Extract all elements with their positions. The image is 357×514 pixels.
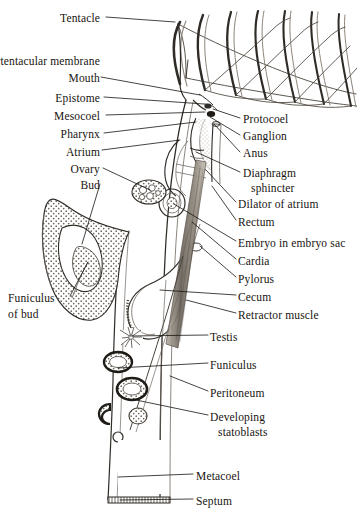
statoblast-3 bbox=[99, 404, 110, 424]
statoblast-2 bbox=[117, 378, 147, 400]
label-diaphragm-sphincter-line2: sphincter bbox=[251, 182, 295, 195]
label-diaphragm-sphincter-line1: Diaphragm bbox=[243, 167, 296, 180]
label-funiculus-of-bud-line2: of bud bbox=[8, 308, 39, 321]
statoblast-4 bbox=[129, 408, 147, 424]
label-septum: Septum bbox=[196, 495, 232, 508]
retractor-muscle bbox=[166, 160, 206, 348]
label-embryo-in-embryo-sac: Embryo in embryo sac bbox=[238, 237, 345, 250]
label-funiculus-of-bud-line1: Funiculus bbox=[8, 292, 55, 305]
label-testis: Testis bbox=[210, 331, 238, 344]
tentacle-crown bbox=[174, 11, 357, 107]
label-protocoel: Protocoel bbox=[243, 113, 288, 126]
label-anus: Anus bbox=[243, 147, 268, 160]
label-dilator-of-atrium: Dilator of atrium bbox=[238, 198, 318, 211]
label-intertentacular-membrane: Intertentacular membrane bbox=[0, 55, 100, 68]
figure-container: Tentacle Intertentacular membrane Mouth … bbox=[0, 0, 357, 514]
label-rectum: Rectum bbox=[238, 216, 275, 229]
anatomy-diagram bbox=[0, 0, 357, 514]
label-cecum: Cecum bbox=[238, 291, 271, 304]
label-atrium: Atrium bbox=[66, 146, 100, 159]
label-mouth: Mouth bbox=[69, 72, 100, 85]
label-metacoel: Metacoel bbox=[196, 470, 240, 483]
metacoel bbox=[118, 440, 162, 494]
label-ganglion: Ganglion bbox=[243, 130, 287, 143]
label-cardia: Cardia bbox=[238, 255, 270, 268]
label-developing-statoblasts-line2: statoblasts bbox=[218, 426, 268, 439]
label-tentacle: Tentacle bbox=[60, 12, 100, 25]
rectum-anus bbox=[212, 122, 221, 184]
label-pharynx: Pharynx bbox=[61, 128, 100, 141]
label-funiculus: Funiculus bbox=[210, 359, 257, 372]
tentacles bbox=[174, 11, 356, 107]
mouth-epistome bbox=[193, 94, 213, 110]
label-bud: Bud bbox=[80, 179, 100, 192]
label-retractor-muscle: Retractor muscle bbox=[238, 309, 319, 322]
statoblast-1 bbox=[104, 352, 132, 372]
label-epistome: Epistome bbox=[55, 92, 100, 105]
label-pylorus: Pylorus bbox=[238, 273, 274, 286]
label-ovary: Ovary bbox=[71, 163, 101, 176]
label-developing-statoblasts-line1: Developing bbox=[210, 411, 265, 424]
label-peritoneum: Peritoneum bbox=[210, 387, 265, 400]
label-mesocoel: Mesocoel bbox=[54, 110, 100, 123]
